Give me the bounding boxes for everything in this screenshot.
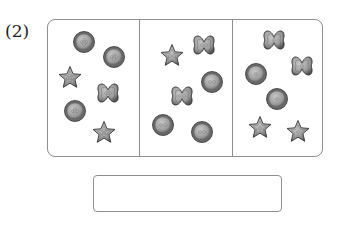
star-button-icon	[247, 115, 273, 141]
group-divider-2	[232, 20, 233, 156]
group-divider-1	[139, 20, 140, 156]
circle-button-icon	[71, 29, 97, 55]
problem-number-label: (2)	[5, 21, 29, 41]
circle-button-icon	[199, 69, 225, 95]
answer-box[interactable]	[93, 175, 282, 212]
flower-button-icon	[289, 53, 315, 79]
circle-button-icon	[243, 61, 269, 87]
flower-button-icon	[261, 27, 287, 53]
circle-button-icon	[150, 112, 176, 138]
flower-button-icon	[191, 32, 217, 58]
flower-button-icon	[169, 83, 195, 109]
star-button-icon	[57, 65, 83, 91]
star-button-icon	[159, 43, 185, 69]
circle-button-icon	[62, 98, 88, 124]
circle-button-icon	[101, 44, 127, 70]
flower-button-icon	[95, 80, 121, 106]
circle-button-icon	[264, 86, 290, 112]
star-button-icon	[91, 120, 117, 146]
star-button-icon	[285, 119, 311, 145]
circle-button-icon	[189, 119, 215, 145]
